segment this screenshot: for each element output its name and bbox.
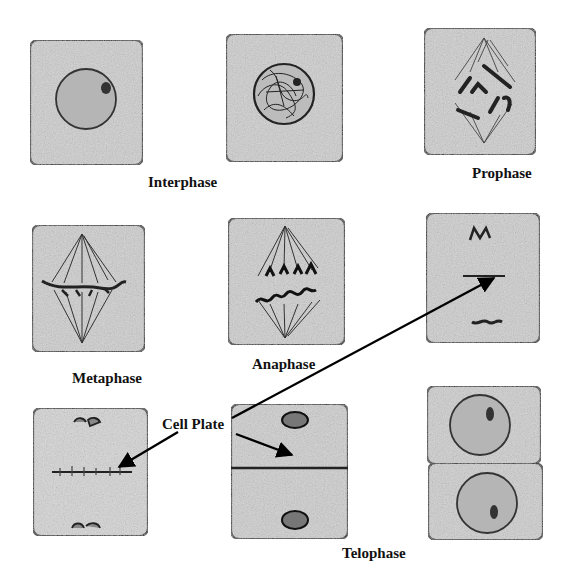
- daughter-nucleus-bottom: [282, 511, 308, 529]
- metaphase-cell: [32, 225, 145, 352]
- nucleolus-bottom: [490, 505, 498, 519]
- label-metaphase: Metaphase: [72, 370, 142, 387]
- label-interphase: Interphase: [148, 174, 217, 191]
- nucleus: [254, 64, 314, 124]
- telophase-dividing-cell: [231, 404, 348, 539]
- diagram-canvas: [0, 0, 574, 586]
- prophase-cell: [424, 28, 536, 155]
- nucleus-bottom: [457, 473, 517, 533]
- daughter-nucleus-top: [282, 412, 308, 428]
- nucleus-top: [450, 395, 510, 455]
- label-anaphase: Anaphase: [252, 356, 315, 373]
- nucleus: [56, 69, 116, 129]
- label-cell-plate: Cell Plate: [162, 416, 224, 433]
- nucleolus: [101, 82, 111, 94]
- label-prophase: Prophase: [472, 165, 532, 182]
- early-telophase-cell: [426, 213, 540, 343]
- early-prophase-cell: [226, 34, 343, 162]
- anaphase-cell: [228, 218, 345, 345]
- interphase-cell: [30, 40, 143, 165]
- daughter-cells: [427, 386, 543, 540]
- nucleolus-top: [486, 407, 494, 421]
- label-telophase: Telophase: [342, 545, 406, 562]
- mitosis-diagram: Interphase Prophase Metaphase Anaphase C…: [0, 0, 574, 586]
- nucleolus: [293, 78, 301, 86]
- telophase-cell-plate-cell: [33, 408, 148, 536]
